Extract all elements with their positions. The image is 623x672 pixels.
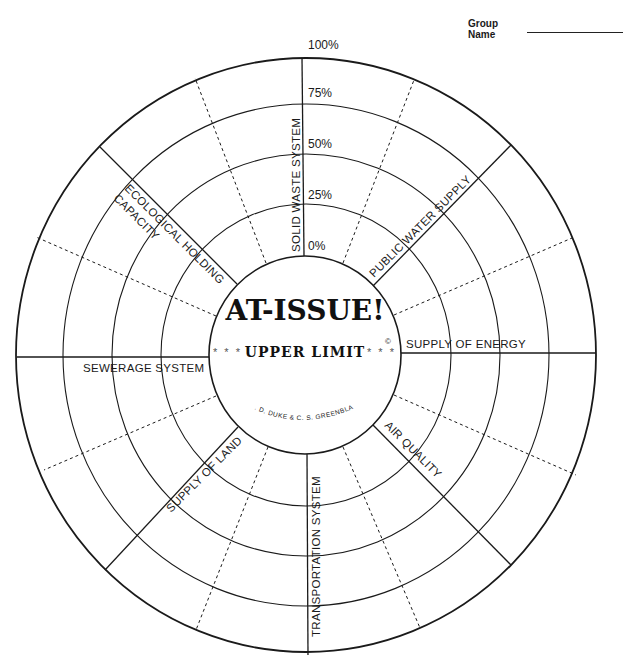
scale-50: 50% [308, 137, 332, 151]
label-sewerage: SEWERAGE SYSTEM [83, 362, 204, 374]
spoke-transportation [307, 454, 308, 655]
copyright-mark: © [385, 337, 391, 346]
upper-limit-wheel: 0% 25% 50% 75% 100% SOLID WASTE SYSTEM P… [0, 0, 623, 672]
label-public-water: PUBLIC WATER SUPPLY [367, 173, 473, 279]
scale-100: 100% [308, 38, 339, 52]
label-land: SUPPLY OF LAND [164, 434, 244, 514]
spoke-solid-waste [302, 58, 304, 256]
stars-left: * * * [213, 346, 242, 358]
label-ecological: ECOLOGICAL HOLDING [123, 182, 227, 286]
spoke-ecological [100, 147, 237, 284]
hub-title: AT-ISSUE! [225, 294, 385, 327]
scale-75: 75% [308, 86, 332, 100]
label-energy: SUPPLY OF ENERGY [406, 338, 526, 350]
dashed-spoke [394, 238, 572, 315]
dashed-spoke [44, 396, 216, 470]
scale-25: 25% [308, 188, 332, 202]
spoke-public-water [373, 145, 511, 286]
stars-right: * * * [367, 346, 396, 358]
label-transportation: TRANSPORTATION SYSTEM [310, 476, 322, 637]
label-solid-waste: SOLID WASTE SYSTEM [290, 118, 302, 252]
hub-subtitle: UPPER LIMIT [245, 344, 365, 360]
center-hub: AT-ISSUE! © * * * UPPER LIMIT * * * R. D… [0, 0, 396, 421]
scale-0: 0% [308, 239, 326, 253]
spoke-air-quality [373, 425, 511, 565]
label-air-quality: AIR QUALITY [383, 419, 444, 480]
dashed-spoke [195, 78, 266, 263]
scale-labels: 0% 25% 50% 75% 100% [308, 38, 339, 253]
